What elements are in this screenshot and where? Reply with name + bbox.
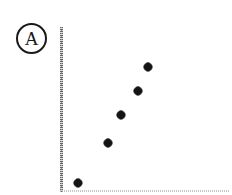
data-point xyxy=(132,85,143,96)
figure-root: A xyxy=(0,0,232,195)
plot-area xyxy=(60,27,230,191)
data-point xyxy=(102,137,113,148)
panel-label-badge: A xyxy=(16,23,47,54)
data-point xyxy=(72,177,83,188)
panel-label-letter: A xyxy=(25,29,39,48)
data-point xyxy=(142,61,153,72)
data-point xyxy=(115,109,126,120)
